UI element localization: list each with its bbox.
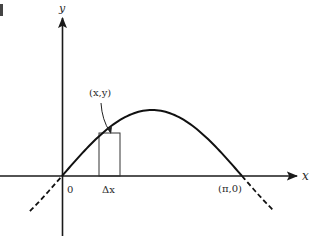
x-axis-label: x [302,169,309,183]
origin-label: 0 [67,184,73,195]
y-axis-label: y [58,2,66,15]
point-label: (x,y) [89,87,111,98]
delta-x-label: Δx [102,184,115,195]
root-label: (π,0) [218,183,242,194]
sine-curve-dashed-right [242,176,274,211]
sine-area-diagram: y x 0 (x,y) Δx (π,0) [0,0,312,239]
delta-x-strip [99,133,120,176]
sine-curve [62,110,242,176]
sine-curve-dashed-left [30,176,62,211]
